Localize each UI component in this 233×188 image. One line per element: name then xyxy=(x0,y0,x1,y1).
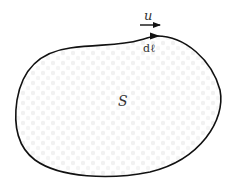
element-label-dl: dℓ xyxy=(143,42,155,55)
region-label-s: S xyxy=(118,93,128,109)
diagram-canvas: u dℓ S xyxy=(0,0,233,188)
vector-label-u: u xyxy=(144,8,152,23)
